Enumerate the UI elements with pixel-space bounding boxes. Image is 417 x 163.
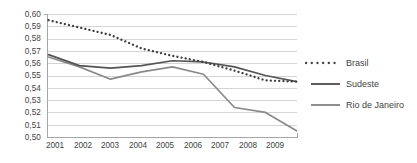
x-axis-end-tick — [297, 133, 298, 138]
legend-item-brasil[interactable]: Brasil — [305, 52, 417, 73]
series-layer — [48, 14, 297, 137]
legend-solid-line-icon — [305, 100, 341, 110]
legend-item-sudeste[interactable]: Sudeste — [305, 73, 417, 94]
legend-solid-line-icon — [305, 79, 341, 89]
y-axis-tick-label: 0,54 — [0, 84, 41, 93]
y-axis-tick-label: 0,59 — [0, 22, 41, 31]
legend: Brasil Sudeste Rio de Janeiro — [305, 52, 417, 115]
y-axis-tick-label: 0,57 — [0, 47, 41, 56]
legend-label: Rio de Janeiro — [346, 100, 404, 110]
y-axis-tick-label: 0,60 — [0, 10, 41, 19]
legend-label: Brasil — [346, 58, 369, 68]
series-line-rio-de-janeiro — [49, 57, 297, 131]
legend-dotted-line-icon — [305, 58, 341, 68]
legend-item-rio-de-janeiro[interactable]: Rio de Janeiro — [305, 94, 417, 115]
y-axis-tick-label: 0,52 — [0, 108, 41, 117]
y-axis-tick-label: 0,51 — [0, 121, 41, 130]
y-axis-tick-label: 0,56 — [0, 59, 41, 68]
x-axis-tick-label: 2009 — [258, 141, 292, 150]
y-axis-tick-label: 0,50 — [0, 133, 41, 142]
y-axis-tick-label: 0,55 — [0, 71, 41, 80]
x-axis-line — [47, 137, 298, 138]
y-axis-tick-label: 0,58 — [0, 34, 41, 43]
line-chart: 0,60 0,59 0,58 0,57 0,56 0,55 0,54 0,53 … — [0, 0, 417, 163]
plot-area — [48, 14, 297, 137]
legend-label: Sudeste — [346, 79, 379, 89]
series-line-brasil — [49, 20, 297, 82]
y-axis-tick-label: 0,53 — [0, 96, 41, 105]
